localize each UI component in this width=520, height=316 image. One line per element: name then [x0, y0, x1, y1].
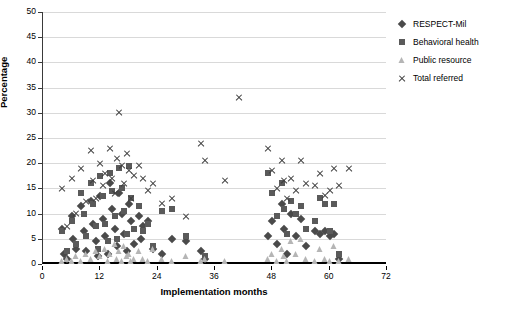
data-point: [78, 258, 84, 264]
data-point: [139, 174, 147, 182]
data-point: [145, 221, 151, 227]
x-tick-label: 12: [87, 272, 111, 281]
scatter-chart: Percentage Implementation months RESPECT…: [0, 0, 520, 316]
data-point: [103, 250, 111, 258]
data-point: [278, 246, 284, 252]
data-point: [128, 195, 134, 201]
y-tick-mark: [38, 264, 42, 265]
data-point: [125, 167, 133, 175]
data-point: [68, 174, 76, 182]
data-point: [281, 253, 287, 259]
data-point: [317, 246, 323, 252]
y-tick-mark: [38, 239, 42, 240]
legend-item-diamond[interactable]: RESPECT-Mil: [396, 16, 520, 32]
data-point: [269, 251, 275, 257]
data-point: [264, 144, 272, 152]
data-point: [104, 258, 110, 264]
data-point: [127, 194, 135, 202]
data-point: [130, 172, 138, 180]
data-point: [131, 226, 137, 232]
data-point: [287, 174, 295, 182]
y-tick-label: 50: [8, 7, 36, 16]
legend-label: Total referred: [413, 73, 463, 83]
data-point: [68, 258, 74, 264]
x-axis-title: Implementation months: [42, 286, 386, 297]
y-tick-label: 45: [8, 32, 36, 41]
x-tick-mark: [42, 266, 43, 270]
data-point: [63, 256, 69, 262]
square-marker-icon: [396, 36, 408, 48]
y-tick-mark: [38, 37, 42, 38]
data-point: [63, 255, 71, 263]
data-point: [235, 94, 243, 102]
data-point: [316, 169, 324, 177]
data-point: [92, 194, 100, 202]
data-point: [336, 251, 342, 257]
data-point: [95, 246, 101, 252]
data-point: [115, 189, 123, 197]
gridline: [43, 239, 386, 240]
legend-item-cross[interactable]: Total referred: [396, 70, 520, 86]
data-point: [87, 256, 93, 262]
y-tick-mark: [38, 88, 42, 89]
legend-label: Public resource: [413, 55, 472, 65]
legend-item-triangle[interactable]: Public resource: [396, 52, 520, 68]
gridline: [43, 62, 386, 63]
data-point: [150, 243, 156, 249]
y-tick-label: 40: [8, 57, 36, 66]
data-point: [288, 198, 294, 204]
y-tick-label: 5: [8, 234, 36, 243]
data-point: [202, 256, 208, 262]
data-point: [102, 246, 108, 252]
data-point: [197, 139, 205, 147]
data-point: [302, 179, 310, 187]
data-point: [83, 251, 89, 257]
data-point: [149, 179, 157, 187]
data-point: [278, 199, 286, 207]
y-tick-label: 10: [8, 209, 36, 218]
data-point: [273, 240, 281, 248]
gridline: [43, 163, 386, 164]
data-point: [100, 193, 106, 199]
data-point: [90, 201, 96, 207]
data-point: [69, 218, 75, 224]
data-point: [89, 177, 97, 185]
y-tick-mark: [38, 12, 42, 13]
data-point: [92, 248, 98, 254]
data-point: [59, 228, 65, 234]
data-point: [77, 164, 85, 172]
data-point: [113, 154, 121, 162]
data-point: [122, 247, 130, 255]
data-point: [168, 194, 176, 202]
legend-item-square[interactable]: Behavioral health: [396, 34, 520, 50]
data-point: [311, 227, 319, 235]
data-point: [78, 190, 84, 196]
data-point: [140, 228, 146, 234]
data-point: [114, 256, 120, 262]
data-point: [82, 197, 90, 205]
data-point: [73, 253, 79, 259]
x-tick-label: 24: [145, 272, 169, 281]
data-point: [330, 230, 338, 238]
data-point: [64, 248, 70, 254]
data-point: [280, 177, 288, 185]
data-point: [97, 253, 103, 259]
data-point: [321, 256, 327, 262]
x-tick-mark: [157, 266, 158, 270]
x-tick-mark: [271, 266, 272, 270]
legend-label: Behavioral health: [413, 37, 479, 47]
data-point: [58, 224, 66, 232]
y-tick-mark: [38, 214, 42, 215]
data-point: [312, 258, 318, 264]
x-tick-mark: [329, 266, 330, 270]
y-tick-mark: [38, 188, 42, 189]
x-tick-label: 36: [202, 272, 226, 281]
y-tick-label: 25: [8, 133, 36, 142]
data-point: [293, 251, 299, 257]
gridline: [43, 12, 386, 13]
data-point: [87, 197, 95, 205]
data-point: [303, 226, 309, 232]
data-point: [336, 258, 342, 264]
data-point: [82, 247, 90, 255]
x-tick-mark: [214, 266, 215, 270]
